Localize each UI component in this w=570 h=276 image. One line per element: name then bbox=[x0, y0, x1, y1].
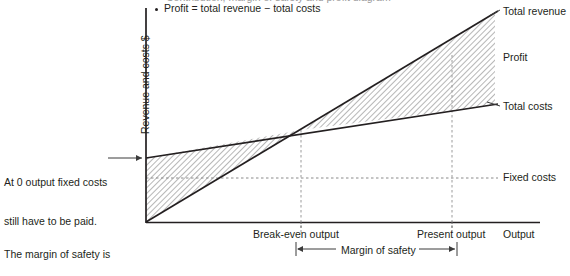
break-even-output-label: Break-even output bbox=[253, 228, 339, 241]
x-axis-title-label: Output bbox=[503, 228, 535, 241]
fixed-costs-label: Fixed costs bbox=[503, 171, 556, 184]
fixed-costs-annotation-line-1: At 0 output fixed costs bbox=[4, 176, 107, 189]
total-costs-label: Total costs bbox=[503, 100, 553, 113]
total-costs-line bbox=[146, 104, 498, 158]
present-output-label: Present output bbox=[417, 228, 485, 241]
total-revenue-label: Total revenue bbox=[503, 5, 566, 18]
margin-of-safety-span-label: Margin of safety bbox=[341, 244, 416, 257]
margin-of-safety-annotation-line-1: The margin of safety is bbox=[4, 248, 138, 261]
profit-definition-note: Profit = total revenue − total costs bbox=[164, 2, 320, 15]
profit-region-label: Profit bbox=[503, 51, 528, 64]
total-revenue-line bbox=[146, 11, 498, 222]
margin-of-safety-annotation: The margin of safety is the extent to wh… bbox=[4, 222, 138, 276]
figure-canvas: Contribution, margin of safety and profi… bbox=[0, 0, 570, 276]
y-axis-title-label: Revenue and costs $ bbox=[139, 14, 152, 134]
y-axis-title: Revenue and costs $ bbox=[113, 0, 178, 14]
